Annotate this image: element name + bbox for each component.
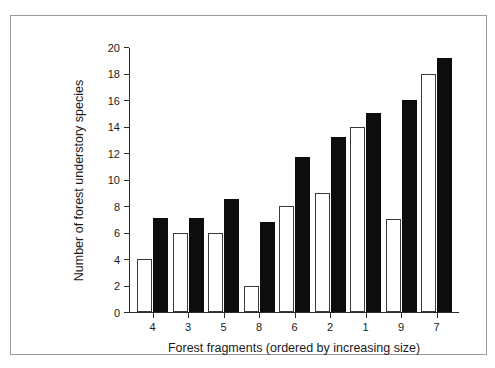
y-tick-12: 12 [124, 153, 129, 154]
bar-open-bar-2 [315, 193, 330, 312]
bar-filled-bar-7 [437, 58, 452, 312]
y-tick-label: 0 [114, 307, 120, 319]
bar-filled-bar-1 [366, 113, 381, 312]
figure-frame: Number of forest understory species 0246… [10, 15, 487, 355]
x-tick-3 [188, 313, 189, 318]
y-tick-0: 0 [124, 312, 129, 313]
bar-open-bar-4 [137, 259, 152, 312]
bar-open-bar-9 [386, 219, 401, 312]
bar-open-bar-7 [421, 74, 436, 313]
y-tick-label: 10 [108, 174, 120, 186]
x-tick-8 [259, 313, 260, 318]
x-tick-label-1: 1 [346, 321, 386, 333]
bar-filled-bar-9 [402, 100, 417, 312]
y-tick-label: 18 [108, 68, 120, 80]
x-tick-1 [366, 313, 367, 318]
x-tick-label-4: 4 [133, 321, 173, 333]
x-tick-5 [224, 313, 225, 318]
y-tick-16: 16 [124, 100, 129, 101]
x-tick-label-6: 6 [275, 321, 315, 333]
y-tick-label: 6 [114, 227, 120, 239]
bar-filled-bar-8 [260, 222, 275, 312]
y-tick-label: 20 [108, 42, 120, 54]
x-tick-label-5: 5 [204, 321, 244, 333]
bar-open-bar-3 [173, 233, 188, 313]
x-tick-label-8: 8 [239, 321, 279, 333]
bar-open-bar-1 [350, 127, 365, 313]
y-tick-label: 16 [108, 95, 120, 107]
y-tick-4: 4 [124, 259, 129, 260]
y-tick-2: 2 [124, 286, 129, 287]
x-tick-label-3: 3 [168, 321, 208, 333]
x-tick-label-7: 7 [417, 321, 457, 333]
bar-filled-bar-6 [295, 157, 310, 312]
x-tick-6 [295, 313, 296, 318]
x-tick-4 [153, 313, 154, 318]
bar-open-bar-8 [244, 286, 259, 313]
y-tick-label: 14 [108, 121, 120, 133]
y-tick-label: 8 [114, 201, 120, 213]
y-tick-20: 20 [124, 47, 129, 48]
y-tick-label: 4 [114, 254, 120, 266]
x-tick-9 [401, 313, 402, 318]
y-tick-6: 6 [124, 233, 129, 234]
bar-filled-bar-2 [331, 137, 346, 312]
y-tick-18: 18 [124, 74, 129, 75]
x-tick-2 [330, 313, 331, 318]
bar-open-bar-6 [279, 206, 294, 312]
bar-filled-bar-4 [153, 218, 168, 312]
y-tick-label: 2 [114, 280, 120, 292]
y-tick-14: 14 [124, 127, 129, 128]
x-tick-7 [437, 313, 438, 318]
y-tick-10: 10 [124, 180, 129, 181]
bar-filled-bar-3 [189, 218, 204, 312]
bar-open-bar-5 [208, 233, 223, 313]
plot-area: 02468101214161820 435862197 [129, 48, 459, 313]
x-axis-title: Forest fragments (ordered by increasing … [129, 341, 459, 355]
x-tick-label-9: 9 [381, 321, 421, 333]
x-tick-label-2: 2 [310, 321, 350, 333]
y-axis-line [129, 48, 130, 313]
bar-filled-bar-5 [224, 199, 239, 312]
y-axis-title: Number of forest understory species [69, 48, 89, 313]
y-tick-8: 8 [124, 206, 129, 207]
y-tick-label: 12 [108, 148, 120, 160]
